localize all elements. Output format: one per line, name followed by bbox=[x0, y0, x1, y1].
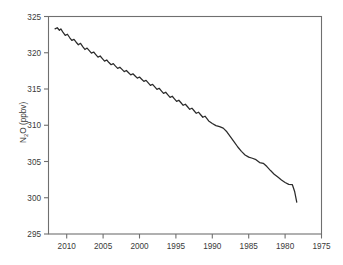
y-axis-title-post: O (ppbv) bbox=[19, 102, 28, 134]
n2o-time-series-chart: 295300305310315320325 201020052000199519… bbox=[0, 0, 343, 265]
x-tick-label: 2010 bbox=[58, 242, 77, 251]
x-tick-label: 1995 bbox=[167, 242, 186, 251]
y-tick-label: 300 bbox=[27, 194, 41, 203]
n2o-data-line bbox=[55, 28, 297, 202]
y-axis-ticks bbox=[44, 17, 49, 235]
chart-figure: 295300305310315320325 201020052000199519… bbox=[0, 0, 343, 265]
y-tick-label: 320 bbox=[27, 49, 41, 58]
x-tick-label: 1975 bbox=[312, 242, 331, 251]
y-tick-label: 295 bbox=[27, 230, 41, 239]
y-tick-label: 310 bbox=[27, 121, 41, 130]
svg-text:N2O (ppbv): N2O (ppbv) bbox=[19, 102, 29, 143]
x-tick-label: 1985 bbox=[240, 242, 259, 251]
y-axis-tick-labels: 295300305310315320325 bbox=[27, 13, 41, 240]
x-tick-label: 1990 bbox=[203, 242, 222, 251]
y-tick-label: 315 bbox=[27, 85, 41, 94]
y-axis-title: N2O (ppbv) bbox=[19, 102, 29, 143]
y-tick-label: 305 bbox=[27, 158, 41, 167]
x-tick-label: 2000 bbox=[130, 242, 149, 251]
x-axis-ticks bbox=[67, 234, 322, 239]
plot-frame bbox=[49, 17, 322, 235]
x-tick-label: 2005 bbox=[94, 242, 113, 251]
y-tick-label: 325 bbox=[27, 13, 41, 22]
x-axis-tick-labels: 20102005200019951990198519801975 bbox=[58, 242, 331, 251]
x-tick-label: 1980 bbox=[276, 242, 295, 251]
